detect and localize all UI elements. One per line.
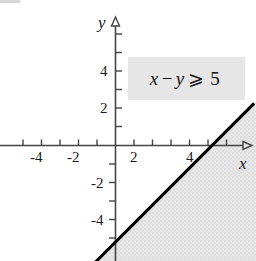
x-tick-label-2: 2 bbox=[130, 150, 138, 165]
inequality-rhs-value: 5 bbox=[207, 68, 223, 90]
x-tick-label--2: -2 bbox=[67, 150, 80, 165]
x-tick-label--4: -4 bbox=[30, 150, 43, 165]
inequality-lhs-x: x bbox=[150, 68, 159, 90]
y-tick-label-2: 2 bbox=[100, 101, 108, 116]
y-axis-label: y bbox=[98, 14, 106, 31]
inequality-label-box: x − y ⩾ 5 bbox=[128, 57, 245, 100]
y-tick-label-4: 4 bbox=[100, 64, 108, 79]
x-axis-label: x bbox=[239, 155, 247, 172]
inequality-minus-sign: − bbox=[159, 68, 176, 90]
inequality-lhs-y: y bbox=[176, 68, 185, 90]
inequality-graph-figure: -4 -2 2 4 4 2 -2 -4 x y x − y ⩾ 5 bbox=[0, 0, 256, 261]
inequality-relation-sign: ⩾ bbox=[185, 67, 208, 90]
cartesian-plot bbox=[0, 0, 256, 261]
y-tick-label--2: -2 bbox=[91, 176, 104, 191]
y-axis-arrowhead bbox=[112, 17, 120, 26]
y-tick-label--4: -4 bbox=[91, 213, 104, 228]
x-axis-ticks bbox=[23, 140, 227, 146]
x-tick-label-4: 4 bbox=[186, 150, 194, 165]
